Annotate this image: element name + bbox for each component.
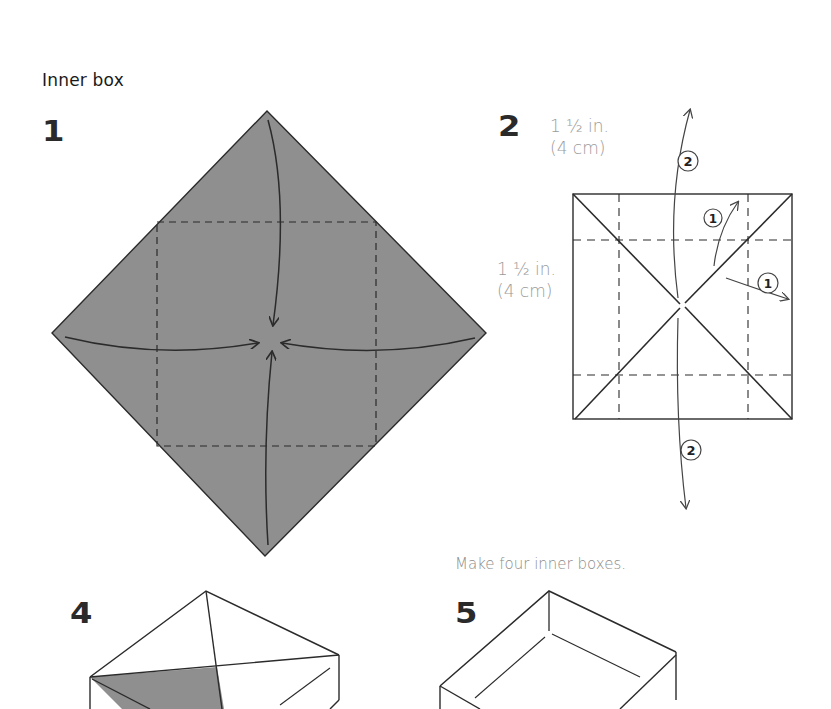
svg-text:2: 2 xyxy=(686,443,695,458)
callout-1-upper: 1 xyxy=(704,209,722,227)
diagram-canvas: 2 1 1 2 xyxy=(0,0,831,709)
paper-diamond xyxy=(52,111,486,556)
svg-text:2: 2 xyxy=(683,154,692,169)
step-2-diagram: 2 1 1 2 xyxy=(573,110,792,508)
callout-2-top: 2 xyxy=(678,151,698,171)
svg-text:1: 1 xyxy=(764,277,772,291)
callout-2-bottom: 2 xyxy=(681,440,701,460)
step-5-diagram xyxy=(440,591,676,709)
callout-1-right: 1 xyxy=(758,273,778,293)
svg-text:1: 1 xyxy=(709,212,717,226)
step-4-diagram xyxy=(90,591,339,709)
step-1-diagram xyxy=(52,111,486,556)
